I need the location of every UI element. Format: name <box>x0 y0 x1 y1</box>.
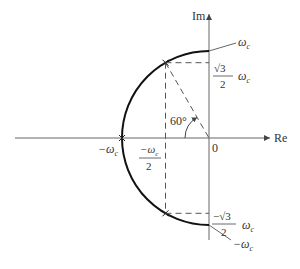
svg-text:2: 2 <box>221 226 227 238</box>
upper-sqrt-label: √3 2 ωc <box>213 62 250 90</box>
svg-text:2: 2 <box>146 160 152 172</box>
half-left-label: −ωc 2 <box>139 143 161 172</box>
real-axis-label: Re <box>274 131 287 145</box>
svg-text:−√3: −√3 <box>213 210 231 222</box>
leader-bottom <box>209 225 231 240</box>
leader-top <box>209 43 236 51</box>
svg-text:√3: √3 <box>214 62 226 74</box>
svg-text:2: 2 <box>220 78 226 90</box>
top-omega-label: ωc <box>238 35 250 51</box>
lower-sqrt-label: −√3 2 ωc <box>212 210 254 238</box>
bottom-omega-label: −ωc <box>233 237 254 253</box>
svg-text:ωc: ωc <box>238 69 250 85</box>
pole-diagram: Im Re 0 60° ωc √3 2 ωc −ωc −ωc 2 −√3 2 ω… <box>0 0 300 269</box>
svg-text:ωc: ωc <box>242 218 254 234</box>
svg-text:−ωc: −ωc <box>140 143 159 158</box>
left-omega-label: −ωc <box>98 142 119 158</box>
origin-label: 0 <box>212 141 218 155</box>
imag-axis-label: Im <box>192 9 206 23</box>
angle-label: 60° <box>170 114 187 128</box>
